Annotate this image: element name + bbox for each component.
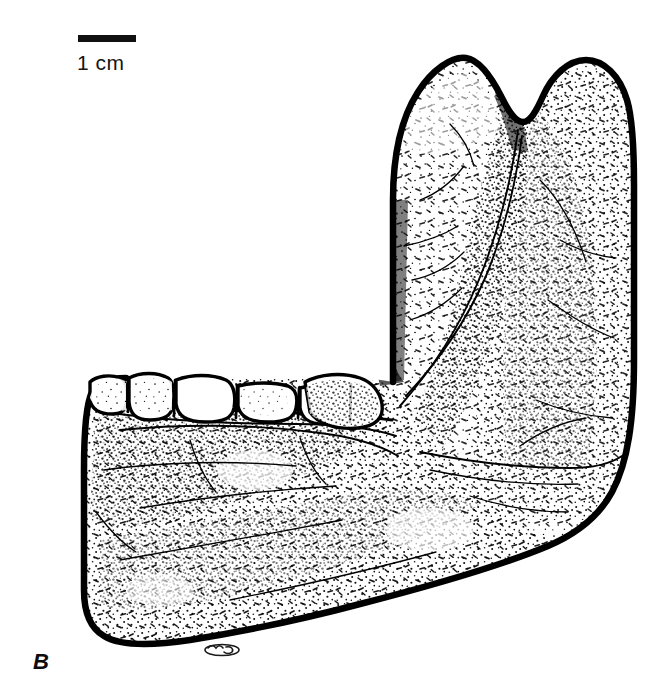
artist-monogram — [205, 645, 239, 656]
tooth-separation-2 — [174, 380, 175, 416]
panel-letter: B — [33, 650, 49, 674]
bone-stipple-texture — [60, 40, 660, 670]
tooth-m1 — [176, 376, 235, 423]
scale-bar-label: 1 cm — [77, 51, 125, 75]
mandible-illustration — [0, 0, 669, 692]
figure-page: 1 cm B — [0, 0, 669, 692]
scale-bar — [78, 35, 136, 42]
mandible-body — [60, 40, 660, 670]
tooth-separation-3 — [236, 386, 237, 418]
tooth-separation-4 — [298, 388, 299, 418]
